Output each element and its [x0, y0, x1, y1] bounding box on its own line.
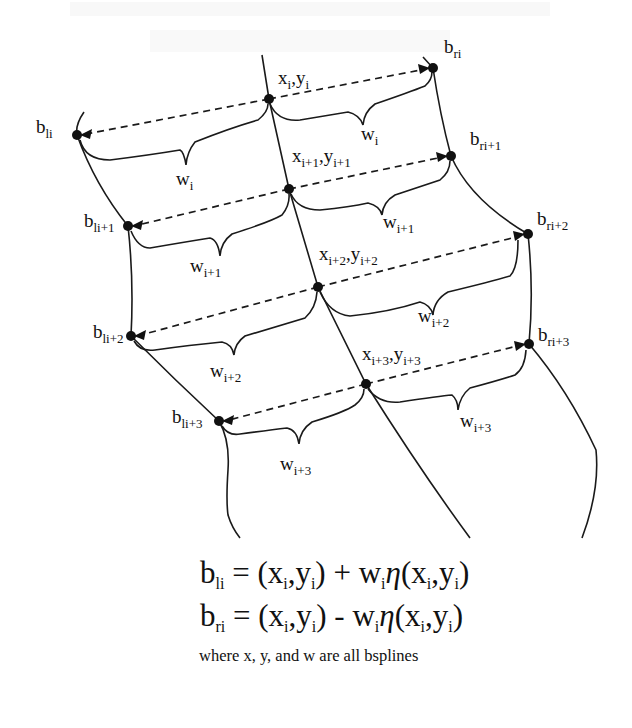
- var-y: y: [296, 598, 312, 633]
- eq-lhs-sub: ri: [216, 618, 226, 635]
- center-nodes: [264, 94, 371, 389]
- comma: ,: [425, 598, 433, 633]
- left-label: bli+3: [172, 406, 203, 431]
- var-x: x: [405, 598, 421, 633]
- paren: (: [395, 598, 405, 633]
- right-boundary-curve: [423, 57, 597, 538]
- right-node: [446, 151, 456, 161]
- var-x: x: [411, 555, 427, 590]
- width-label: wi+3: [460, 410, 491, 435]
- paren: ): [315, 555, 325, 590]
- center-node: [284, 184, 294, 194]
- center-label: xi,yi: [278, 67, 309, 92]
- eta-symbol: η: [379, 598, 394, 633]
- arrowhead-icon: [513, 231, 525, 241]
- left-node: [72, 130, 82, 140]
- paren: (: [401, 555, 411, 590]
- paren: (: [257, 555, 267, 590]
- equation-right-boundary: bri = (xi,yi) - wiη(xi,yi): [200, 597, 463, 646]
- var-y: y: [433, 598, 449, 633]
- normal-vectors: [86, 69, 521, 420]
- paren: ): [316, 598, 326, 633]
- right-boundary-nodes: [428, 63, 534, 349]
- center-label: xi+2,yi+2: [319, 243, 378, 268]
- var-x: x: [268, 555, 284, 590]
- paren: (: [258, 598, 268, 633]
- width-label: wi+3: [280, 453, 311, 478]
- left-node: [126, 331, 136, 341]
- paren: ): [459, 555, 469, 590]
- center-label: xi+1,yi+1: [292, 145, 351, 170]
- eq-lhs: b: [200, 555, 216, 590]
- width-braces: [80, 72, 526, 444]
- center-node: [313, 282, 323, 292]
- comma: ,: [431, 555, 439, 590]
- eq-operator: +: [333, 555, 350, 590]
- width-label: wi+2: [210, 360, 241, 385]
- right-node: [524, 339, 534, 349]
- equation-left-boundary: bli = (xi,yi) + wiη(xi,yi): [200, 554, 469, 603]
- center-node: [264, 94, 274, 104]
- width-label: wi+1: [190, 255, 221, 280]
- paren: ): [453, 598, 463, 633]
- center-node: [361, 379, 371, 389]
- right-label: bri: [444, 36, 462, 61]
- right-label: bri+3: [538, 324, 569, 349]
- left-label: bli+2: [93, 321, 124, 346]
- width-label: wi: [176, 168, 194, 193]
- eq-lhs: b: [200, 598, 216, 633]
- var-w: w: [352, 598, 374, 633]
- left-node: [123, 221, 133, 231]
- var-w: w: [359, 555, 381, 590]
- arrowheads: [80, 64, 526, 425]
- caption: where x, y, and w are all bsplines: [199, 646, 418, 666]
- right-labels: bri bri+1 bri+2 bri+3: [444, 36, 569, 349]
- eq-equals: =: [232, 555, 249, 590]
- left-label: bli: [36, 116, 53, 141]
- right-label: bri+2: [537, 208, 568, 233]
- left-node: [214, 416, 224, 426]
- eta-symbol: η: [386, 555, 401, 590]
- var-x: x: [269, 598, 285, 633]
- width-label: wi: [361, 123, 379, 148]
- watermark: [70, 2, 550, 52]
- var-y: y: [295, 555, 311, 590]
- eq-operator: -: [334, 598, 344, 633]
- width-label: wi+1: [383, 211, 414, 236]
- eq-lhs-sub: li: [216, 575, 225, 592]
- center-label: xi+3,yi+3: [362, 343, 421, 368]
- left-label: bli+1: [84, 210, 115, 235]
- eq-equals: =: [233, 598, 250, 633]
- arrowhead-icon: [514, 341, 526, 351]
- left-labels: bli bli+1 bli+2 bli+3: [36, 116, 203, 431]
- right-label: bri+1: [470, 128, 501, 153]
- right-node: [523, 229, 533, 239]
- right-node: [428, 63, 438, 73]
- var-y: y: [439, 555, 455, 590]
